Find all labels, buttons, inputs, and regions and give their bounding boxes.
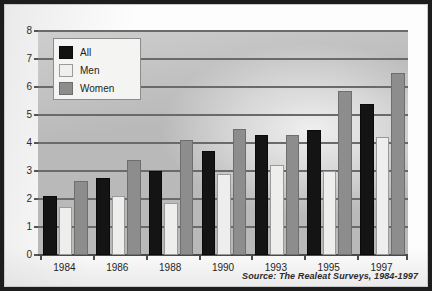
y-tick-label-1: 1	[6, 222, 32, 232]
bar-men-1997	[376, 137, 390, 255]
bar-all-1988	[149, 171, 163, 255]
y-tick-label-7: 7	[6, 54, 32, 64]
x-tick-label-1988: 1988	[150, 262, 190, 273]
bar-men-1988	[164, 203, 178, 255]
bar-men-1995	[323, 171, 337, 255]
legend-label-women: Women	[80, 83, 114, 94]
legend-swatch-women-icon	[59, 82, 73, 95]
bar-all-1997	[360, 104, 374, 255]
x-tick-mark-1988	[146, 255, 148, 260]
x-tick-mark-1995	[304, 255, 306, 260]
y-tick-mark-4	[34, 142, 38, 144]
bar-chart: 012345678 1984198619881990199319951997 A…	[0, 0, 432, 291]
bar-women-1988	[180, 140, 194, 255]
x-tick-label-1990: 1990	[203, 262, 243, 273]
y-tick-label-2: 2	[6, 194, 32, 204]
y-tick-label-3: 3	[6, 166, 32, 176]
y-tick-mark-0	[34, 254, 38, 256]
x-tick-mark-1986	[93, 255, 95, 260]
bar-all-1993	[255, 135, 269, 255]
source-caption: Source: The Realeat Surveys, 1984-1997	[242, 271, 418, 281]
x-tick-mark-1997	[357, 255, 359, 260]
legend-item-men: Men	[59, 61, 140, 79]
y-tick-mark-7	[34, 58, 38, 60]
y-tick-mark-2	[34, 198, 38, 200]
legend-swatch-men-icon	[59, 64, 73, 77]
bar-women-1986	[127, 160, 141, 255]
gridline-3	[38, 170, 408, 172]
bar-all-1990	[202, 151, 216, 255]
bar-men-1993	[270, 165, 284, 255]
x-tick-mark-1984	[40, 255, 42, 260]
x-tick-label-1984: 1984	[44, 262, 84, 273]
gridline-5	[38, 114, 408, 116]
legend-label-all: All	[80, 47, 91, 58]
y-tick-mark-8	[34, 30, 38, 32]
chart-figure: 012345678 1984198619881990199319951997 A…	[0, 0, 432, 291]
x-tick-mark-1990	[199, 255, 201, 260]
y-tick-label-6: 6	[6, 82, 32, 92]
bar-men-1984	[59, 207, 73, 255]
y-tick-mark-6	[34, 86, 38, 88]
bar-women-1993	[286, 135, 300, 255]
legend-swatch-all-icon	[59, 46, 73, 59]
bar-all-1986	[96, 178, 110, 255]
chart-legend: All Men Women	[53, 38, 141, 100]
bar-all-1995	[307, 130, 321, 255]
gridline-8	[38, 30, 408, 32]
bar-women-1984	[74, 181, 88, 255]
legend-item-women: Women	[59, 79, 140, 97]
y-tick-label-8: 8	[6, 26, 32, 36]
y-tick-mark-3	[34, 170, 38, 172]
bar-men-1986	[112, 196, 126, 255]
legend-item-all: All	[59, 43, 140, 61]
bar-women-1990	[233, 129, 247, 255]
y-tick-label-5: 5	[6, 110, 32, 120]
legend-label-men: Men	[80, 65, 99, 76]
gridline-4	[38, 142, 408, 144]
y-tick-mark-1	[34, 226, 38, 228]
y-tick-label-0: 0	[6, 250, 32, 260]
bar-women-1995	[338, 91, 352, 255]
y-tick-label-4: 4	[6, 138, 32, 148]
y-tick-mark-5	[34, 114, 38, 116]
bar-all-1984	[43, 196, 57, 255]
bar-men-1990	[217, 174, 231, 255]
x-tick-mark-end	[406, 255, 408, 260]
bar-women-1997	[391, 73, 405, 255]
x-tick-mark-1993	[251, 255, 253, 260]
x-tick-label-1986: 1986	[97, 262, 137, 273]
